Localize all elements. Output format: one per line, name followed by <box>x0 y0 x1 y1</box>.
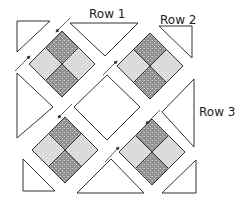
row-1-label: Row 1 <box>89 7 125 21</box>
block-top-right <box>117 33 183 99</box>
arrow-icon <box>56 18 70 32</box>
block-top-left <box>29 31 95 97</box>
quilt-diagram: Row 1 Row 2 Row 3 <box>0 0 243 205</box>
arrow-icon <box>15 56 30 71</box>
row-3-label: Row 3 <box>199 105 235 119</box>
block-bottom-left <box>32 117 98 183</box>
plain-center-square <box>74 75 140 140</box>
block-bottom-right <box>119 119 185 185</box>
arrow-icon <box>58 104 72 118</box>
row-2-label: Row 2 <box>160 13 196 27</box>
quilt-diagram-canvas <box>0 0 243 205</box>
arrow-icon <box>103 61 117 75</box>
